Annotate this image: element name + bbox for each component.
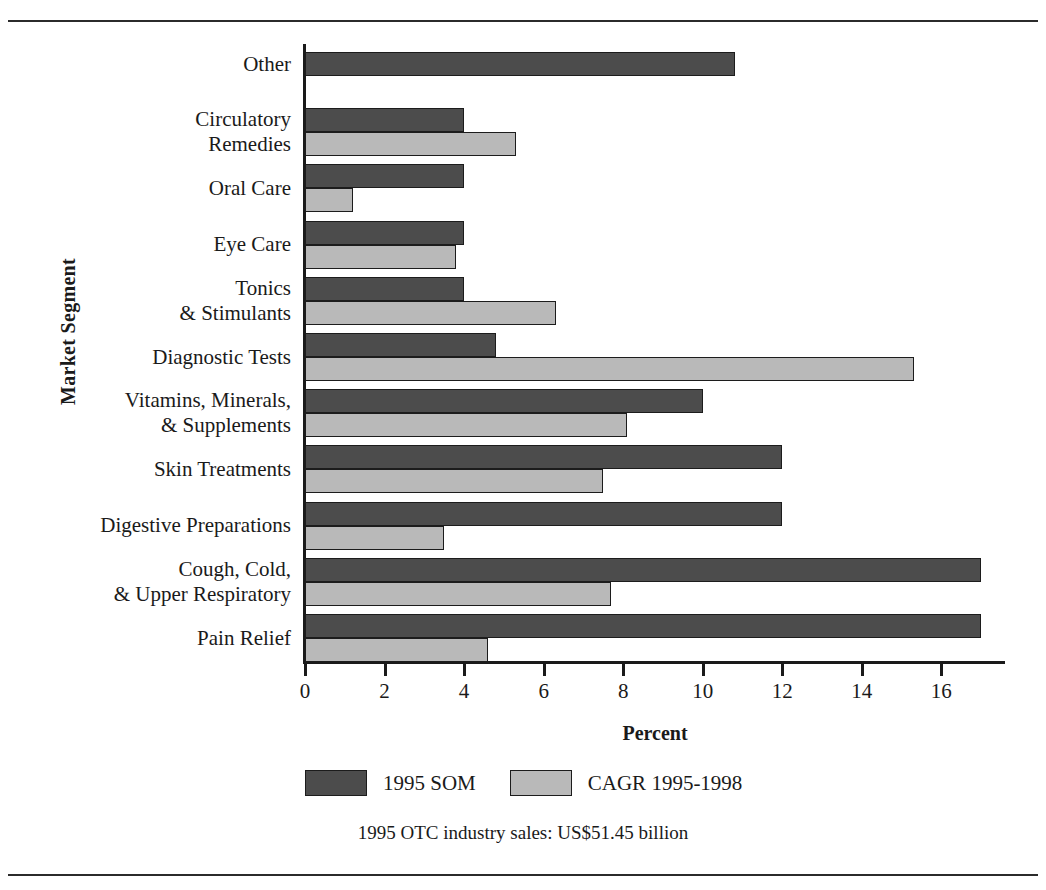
x-axis-title: Percent xyxy=(305,722,1005,745)
bar-cagr xyxy=(305,469,603,493)
x-tick-mark xyxy=(463,663,466,676)
bar-som xyxy=(305,277,464,301)
bar-som xyxy=(305,389,703,413)
bottom-divider-rule xyxy=(8,874,1038,876)
x-tick-mark xyxy=(781,663,784,676)
top-divider-rule xyxy=(8,20,1038,22)
bar-group: Other xyxy=(305,52,1005,76)
bar-som xyxy=(305,164,464,188)
legend-label-cagr: CAGR 1995-1998 xyxy=(588,771,743,796)
x-tick-mark xyxy=(940,663,943,676)
bar-som xyxy=(305,52,735,76)
bar-group: Skin Treatments xyxy=(305,445,1005,493)
legend-swatch-som-icon xyxy=(305,770,367,796)
category-label: Oral Care xyxy=(0,176,291,201)
bar-group: Vitamins, Minerals, & Supplements xyxy=(305,389,1005,437)
bar-cagr xyxy=(305,413,627,437)
category-label: Vitamins, Minerals, & Supplements xyxy=(0,388,291,438)
bar-cagr xyxy=(305,132,516,156)
bar-group: Diagnostic Tests xyxy=(305,333,1005,381)
category-label: Diagnostic Tests xyxy=(0,345,291,370)
chart-footnote: 1995 OTC industry sales: US$51.45 billio… xyxy=(0,822,1046,844)
chart-legend: 1995 SOM CAGR 1995-1998 xyxy=(305,770,905,796)
bar-group: Tonics & Stimulants xyxy=(305,277,1005,325)
bar-group: Eye Care xyxy=(305,221,1005,269)
chart-figure: Market Segment Percent OtherCirculatory … xyxy=(0,0,1046,890)
category-label: Eye Care xyxy=(0,232,291,257)
bar-group: Pain Relief xyxy=(305,614,1005,662)
bar-group: Digestive Preparations xyxy=(305,502,1005,550)
x-tick-mark xyxy=(622,663,625,676)
legend-item-som[interactable]: 1995 SOM xyxy=(305,770,476,796)
bar-som xyxy=(305,221,464,245)
bar-cagr xyxy=(305,638,488,662)
category-label: Digestive Preparations xyxy=(0,513,291,538)
category-label: Circulatory Remedies xyxy=(0,107,291,157)
x-tick-mark xyxy=(702,663,705,676)
x-tick-label: 4 xyxy=(440,679,488,704)
bar-cagr xyxy=(305,301,556,325)
plot-area: OtherCirculatory RemediesOral CareEye Ca… xyxy=(305,44,1005,662)
legend-label-som: 1995 SOM xyxy=(383,771,476,796)
x-tick-mark xyxy=(543,663,546,676)
category-label: Pain Relief xyxy=(0,626,291,651)
category-label: Cough, Cold, & Upper Respiratory xyxy=(0,557,291,607)
bar-som xyxy=(305,558,981,582)
bar-cagr xyxy=(305,357,914,381)
x-tick-mark xyxy=(861,663,864,676)
x-tick-label: 0 xyxy=(281,679,329,704)
bar-som xyxy=(305,502,782,526)
bar-som xyxy=(305,445,782,469)
bar-som xyxy=(305,614,981,638)
category-label: Other xyxy=(0,52,291,77)
x-tick-label: 16 xyxy=(917,679,965,704)
legend-item-cagr[interactable]: CAGR 1995-1998 xyxy=(510,770,743,796)
legend-swatch-cagr-icon xyxy=(510,770,572,796)
bar-cagr xyxy=(305,582,611,606)
bar-cagr xyxy=(305,245,456,269)
x-tick-mark xyxy=(304,663,307,676)
x-tick-label: 10 xyxy=(679,679,727,704)
x-tick-label: 6 xyxy=(520,679,568,704)
bar-group: Cough, Cold, & Upper Respiratory xyxy=(305,558,1005,606)
bar-cagr xyxy=(305,188,353,212)
x-tick-label: 12 xyxy=(758,679,806,704)
x-tick-label: 2 xyxy=(361,679,409,704)
x-tick-label: 8 xyxy=(599,679,647,704)
category-label: Tonics & Stimulants xyxy=(0,276,291,326)
bar-cagr xyxy=(305,526,444,550)
bar-som xyxy=(305,333,496,357)
x-tick-mark xyxy=(384,663,387,676)
x-tick-label: 14 xyxy=(838,679,886,704)
category-label: Skin Treatments xyxy=(0,457,291,482)
bar-group: Oral Care xyxy=(305,164,1005,212)
bar-group: Circulatory Remedies xyxy=(305,108,1005,156)
bar-som xyxy=(305,108,464,132)
